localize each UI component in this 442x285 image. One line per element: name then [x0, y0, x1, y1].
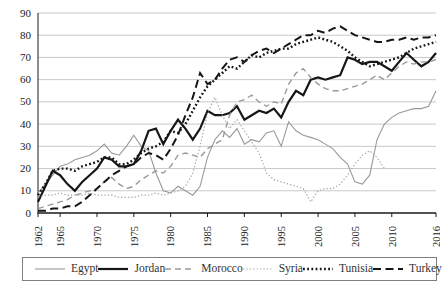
legend-item-morocco: Morocco [165, 263, 243, 275]
x-tick-label: 2016 [431, 226, 440, 247]
x-tick-label: 1962 [33, 226, 44, 247]
x-tick-label: 2005 [350, 226, 361, 247]
legend-line-sample-morocco [165, 265, 195, 273]
x-tick-label: 1975 [129, 226, 140, 247]
y-tick-label: 0 [26, 207, 32, 219]
y-tick-label: 20 [20, 162, 32, 174]
y-tick-label: 50 [20, 95, 32, 107]
x-tick-label: 2010 [387, 226, 398, 247]
legend-item-jordan: Jordan [98, 263, 165, 275]
legend-item-tunisia: Tunisia [303, 263, 373, 275]
legend-label-morocco: Morocco [201, 263, 243, 275]
series-line-jordan [38, 53, 436, 202]
legend-line-sample-jordan [98, 265, 128, 273]
legend-label-tunisia: Tunisia [339, 263, 373, 275]
y-tick-label: 90 [20, 7, 32, 19]
series-line-turkey [38, 26, 436, 211]
y-tick-label: 30 [20, 140, 32, 152]
x-tick-label: 1980 [165, 226, 176, 247]
legend-item-syria: Syria [243, 263, 303, 275]
y-tick-label: 10 [20, 184, 32, 196]
x-tick-label: 2000 [313, 226, 324, 247]
legend-label-jordan: Jordan [134, 263, 165, 275]
legend-line-sample-egypt [35, 265, 65, 273]
y-tick-label: 80 [20, 29, 32, 41]
legend-item-egypt: Egypt [35, 263, 98, 275]
legend-line-sample-turkey [373, 265, 403, 273]
legend-item-turkey: Turkey [373, 263, 442, 275]
chart-legend: EgyptJordanMoroccoSyriaTunisiaTurkey [22, 257, 437, 281]
legend-label-egypt: Egypt [71, 263, 98, 275]
series-line-morocco [38, 60, 436, 209]
chart-plot-area: 0102030405060708090196219651970197519801… [0, 0, 440, 255]
y-tick-label: 70 [20, 51, 32, 63]
legend-line-sample-tunisia [303, 265, 333, 273]
x-tick-label: 1990 [239, 226, 250, 247]
x-tick-label: 1965 [55, 226, 66, 247]
legend-label-syria: Syria [279, 263, 303, 275]
x-tick-label: 1970 [92, 226, 103, 247]
x-tick-label: 1985 [202, 226, 213, 247]
legend-line-sample-syria [243, 265, 273, 273]
legend-label-turkey: Turkey [409, 263, 442, 275]
y-tick-label: 60 [20, 73, 32, 85]
x-tick-label: 1995 [276, 226, 287, 247]
y-tick-label: 40 [20, 118, 32, 130]
